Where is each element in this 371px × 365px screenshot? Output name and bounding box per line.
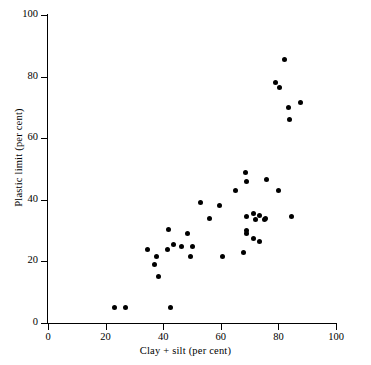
data-point bbox=[244, 231, 249, 236]
x-axis-tick bbox=[48, 324, 49, 330]
data-point bbox=[257, 213, 262, 218]
data-point bbox=[123, 305, 128, 310]
y-axis-tick bbox=[41, 323, 48, 324]
data-point bbox=[207, 216, 212, 221]
x-axis-tick bbox=[221, 324, 222, 330]
x-axis-tick-label: 100 bbox=[321, 331, 351, 342]
data-point bbox=[156, 274, 161, 279]
scatter-plot-figure: 020406080100 020406080100 Clay + silt (p… bbox=[0, 0, 371, 365]
data-point bbox=[257, 239, 262, 244]
data-point bbox=[289, 214, 294, 219]
data-point bbox=[287, 117, 292, 122]
data-point bbox=[264, 177, 269, 182]
data-point bbox=[145, 247, 150, 252]
x-axis-tick bbox=[336, 324, 337, 330]
data-point bbox=[185, 231, 190, 236]
data-point bbox=[251, 236, 256, 241]
data-point bbox=[152, 262, 157, 267]
x-axis-tick-label: 60 bbox=[206, 331, 236, 342]
data-point bbox=[166, 227, 171, 232]
data-point bbox=[179, 244, 184, 249]
data-point bbox=[112, 305, 117, 310]
data-point bbox=[298, 100, 303, 105]
x-axis-tick-label: 40 bbox=[148, 331, 178, 342]
data-point bbox=[251, 211, 256, 216]
data-point bbox=[244, 214, 249, 219]
data-point bbox=[233, 188, 238, 193]
data-point bbox=[171, 242, 176, 247]
y-axis-tick-label: 0 bbox=[10, 317, 38, 328]
data-point bbox=[220, 254, 225, 259]
data-point bbox=[277, 85, 282, 90]
data-point bbox=[188, 254, 193, 259]
y-axis-tick bbox=[41, 138, 48, 139]
data-point bbox=[243, 170, 248, 175]
y-axis-title: Plastic limit (per cent) bbox=[13, 78, 24, 238]
x-axis-title: Clay + silt (per cent) bbox=[0, 345, 371, 356]
y-axis-tick bbox=[41, 77, 48, 78]
y-axis-tick bbox=[41, 200, 48, 201]
data-point bbox=[190, 244, 195, 249]
data-point bbox=[253, 217, 258, 222]
data-point bbox=[282, 57, 287, 62]
x-axis-line bbox=[47, 323, 337, 324]
data-point bbox=[154, 254, 159, 259]
data-point bbox=[198, 200, 203, 205]
data-point bbox=[244, 179, 249, 184]
plot-data-area bbox=[48, 15, 336, 323]
y-axis-tick bbox=[41, 15, 48, 16]
y-axis-tick bbox=[41, 261, 48, 262]
x-axis-tick-label: 80 bbox=[263, 331, 293, 342]
x-axis-tick bbox=[278, 324, 279, 330]
data-point bbox=[165, 247, 170, 252]
y-axis-tick-label: 100 bbox=[10, 9, 38, 20]
data-point bbox=[276, 188, 281, 193]
data-point bbox=[217, 203, 222, 208]
x-axis-tick bbox=[163, 324, 164, 330]
data-point bbox=[241, 250, 246, 255]
data-point bbox=[263, 216, 268, 221]
data-point bbox=[168, 305, 173, 310]
y-axis-tick-label: 20 bbox=[10, 255, 38, 266]
x-axis-tick-label: 20 bbox=[91, 331, 121, 342]
x-axis-tick bbox=[106, 324, 107, 330]
x-axis-tick-label: 0 bbox=[33, 331, 63, 342]
data-point bbox=[286, 105, 291, 110]
